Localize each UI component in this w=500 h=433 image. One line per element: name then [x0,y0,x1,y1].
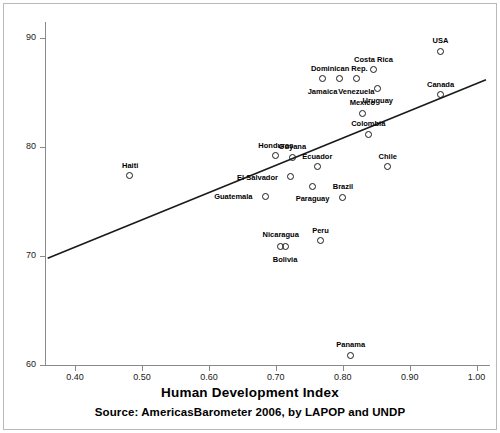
point-label: El Salvador [237,173,278,182]
point-label: Nicaragua [263,230,299,239]
x-axis-line [45,365,490,366]
scatter-point[interactable] [287,173,294,180]
scatter-point[interactable] [370,66,377,73]
point-label: Haiti [122,161,138,170]
y-axis-line [45,22,46,366]
y-tick-label: 80 [10,141,36,151]
point-label: Bolivia [273,255,298,264]
source-note: Source: AmericasBarometer 2006, by LAPOP… [0,406,500,418]
scatter-point[interactable] [353,75,360,82]
scatter-point[interactable] [317,237,324,244]
x-tick-label: 0.90 [390,372,430,382]
x-tick-label: 0.50 [122,372,162,382]
point-label: Dominican Rep. [311,64,368,73]
x-tick-mark [276,366,277,371]
scatter-point[interactable] [347,352,354,359]
point-label: Panama [336,340,365,349]
scatter-point[interactable] [262,193,269,200]
x-tick-label: 0.80 [323,372,363,382]
x-axis-title: Human Development Index [0,385,500,400]
scatter-point[interactable] [289,154,296,161]
point-label: Colombia [351,119,385,128]
point-label: Guyana [279,142,307,151]
point-label: Uruguay [363,96,393,105]
point-label: USA [432,36,448,45]
point-label: Peru [312,226,329,235]
x-tick-label: 0.60 [189,372,229,382]
point-label: Chile [379,152,397,161]
x-tick-mark [410,366,411,371]
y-tick-label: 90 [10,32,36,42]
point-label: Guatemala [214,192,252,201]
x-tick-label: 0.40 [55,372,95,382]
scatter-point[interactable] [314,163,321,170]
scatter-point[interactable] [437,48,444,55]
y-tick-mark [40,38,45,39]
scatter-point[interactable] [359,110,366,117]
scatter-point[interactable] [365,131,372,138]
point-label: Costa Rica [354,55,393,64]
x-tick-mark [343,366,344,371]
scatter-point[interactable] [319,75,326,82]
point-label: Brazil [333,182,353,191]
point-label: Canada [427,80,454,89]
scatter-point[interactable] [282,243,289,250]
point-label: Venezuela [338,87,374,96]
y-tick-mark [40,256,45,257]
y-tick-label: 70 [10,250,36,260]
scatter-point[interactable] [336,75,343,82]
point-label: Paraguay [296,194,330,203]
x-tick-mark [209,366,210,371]
scatter-point[interactable] [126,172,133,179]
chart-figure: 60708090 0.400.500.600.700.800.901.00 Ha… [0,0,500,433]
x-tick-mark [142,366,143,371]
y-tick-label: 60 [10,359,36,369]
x-tick-mark [75,366,76,371]
scatter-point[interactable] [374,85,381,92]
point-label: Jamaica [308,87,338,96]
scatter-point[interactable] [272,152,279,159]
scatter-point[interactable] [309,183,316,190]
x-tick-label: 1.00 [457,372,497,382]
y-tick-mark [40,147,45,148]
point-label: Ecuador [302,152,332,161]
scatter-point[interactable] [384,163,391,170]
x-tick-label: 0.70 [256,372,296,382]
x-tick-mark [477,366,478,371]
scatter-point[interactable] [437,91,444,98]
y-tick-mark [40,365,45,366]
scatter-point[interactable] [339,194,346,201]
